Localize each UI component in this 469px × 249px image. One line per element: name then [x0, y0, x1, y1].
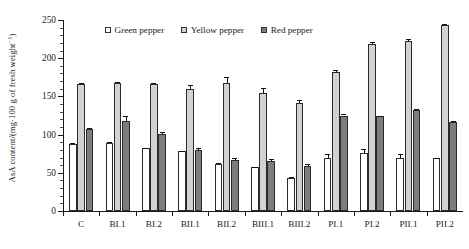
y-axis-tick-major — [58, 20, 63, 21]
error-bar-cap — [325, 154, 330, 155]
y-axis-tick-minor — [60, 119, 63, 120]
bar-green-pepper-BIII.2 — [287, 178, 295, 211]
y-axis-tick-minor — [60, 203, 63, 204]
bar-red-pepper-PII.2 — [449, 122, 457, 211]
x-axis-tick — [390, 211, 391, 216]
x-axis-tick-label: BII.2 — [217, 219, 236, 229]
y-axis-tick-minor — [60, 104, 63, 105]
legend-label: Red pepper — [271, 25, 313, 35]
legend-entry-yellow-pepper: Yellow pepper — [181, 25, 244, 35]
error-bar-cap — [378, 116, 383, 117]
x-axis-tick — [318, 211, 319, 216]
legend-label: Yellow pepper — [191, 25, 244, 35]
x-axis-tick-label: C — [78, 219, 84, 229]
bar-green-pepper-PI.1 — [324, 158, 332, 211]
legend-entry-red-pepper: Red pepper — [261, 25, 313, 35]
bar-yellow-pepper-BII.2 — [223, 83, 231, 211]
bar-red-pepper-BII.2 — [231, 160, 239, 211]
bar-yellow-pepper-BII.1 — [186, 89, 194, 211]
y-axis-tick-minor — [60, 81, 63, 82]
bar-red-pepper-BI.2 — [158, 134, 166, 211]
bar-yellow-pepper-BIII.2 — [296, 103, 304, 211]
y-axis-tick-label: 0 — [51, 206, 56, 216]
y-axis-tick-major — [58, 135, 63, 136]
bar-yellow-pepper-BI.1 — [114, 83, 122, 211]
error-bar-cap — [70, 143, 75, 144]
y-axis-tick-label: 50 — [47, 168, 56, 178]
bar-green-pepper-C — [69, 144, 77, 211]
y-axis-tick-minor — [60, 66, 63, 67]
y-axis-tick-minor — [60, 89, 63, 90]
x-axis-tick-label: PI.1 — [328, 219, 343, 229]
legend-swatch-icon — [105, 27, 111, 33]
x-axis-tick — [172, 211, 173, 216]
error-bar-cap — [151, 83, 156, 84]
legend-entry-green-pepper: Green pepper — [105, 25, 164, 35]
x-axis-tick-label: BIII.2 — [288, 219, 310, 229]
error-bar-cap — [269, 159, 274, 160]
x-axis-tick — [208, 211, 209, 216]
error-bar-cap — [115, 82, 120, 83]
chart-legend: Green pepperYellow pepperRed pepper — [105, 25, 313, 35]
legend-swatch-icon — [261, 27, 267, 33]
error-bar-cap — [87, 128, 92, 129]
x-axis-tick — [427, 211, 428, 216]
x-axis-tick-label: PII.2 — [436, 219, 454, 229]
error-bar-cap — [370, 42, 375, 43]
bar-green-pepper-BII.1 — [178, 151, 186, 211]
error-bar-cap — [261, 88, 266, 89]
bar-red-pepper-BII.1 — [195, 150, 203, 211]
y-axis-tick-major — [58, 96, 63, 97]
error-bar-cap — [180, 151, 185, 152]
legend-label: Green pepper — [115, 25, 165, 35]
y-axis-tick-minor — [60, 28, 63, 29]
error-bar-cap — [341, 114, 346, 115]
bar-green-pepper-BIII.1 — [251, 167, 259, 211]
bar-green-pepper-PI.2 — [360, 153, 368, 211]
y-axis-tick-minor — [60, 112, 63, 113]
bar-yellow-pepper-PII.1 — [405, 41, 413, 211]
error-bar-cap — [252, 167, 257, 168]
x-axis-tick — [354, 211, 355, 216]
bar-red-pepper-PII.1 — [413, 110, 421, 211]
bar-yellow-pepper-C — [77, 84, 85, 211]
bar-red-pepper-C — [86, 129, 94, 211]
y-axis-tick-minor — [60, 51, 63, 52]
error-bar-cap — [414, 109, 419, 110]
y-axis-title-text: AsA content/(mg·100 g of fresh weight — [7, 43, 17, 182]
y-axis-tick-minor — [60, 127, 63, 128]
y-axis-tick-label: 100 — [42, 130, 56, 140]
bar-red-pepper-PI.2 — [376, 116, 384, 211]
x-axis-tick — [99, 211, 100, 216]
bar-yellow-pepper-PI.2 — [368, 44, 376, 211]
x-axis-tick — [136, 211, 137, 216]
error-bar-cap — [442, 24, 447, 25]
y-axis-title-exponent: −1 — [5, 36, 12, 43]
y-axis-tick-major — [58, 173, 63, 174]
x-axis-tick — [245, 211, 246, 216]
error-bar-cap — [160, 132, 165, 133]
y-axis-tick-major — [58, 58, 63, 59]
error-bar-cap — [289, 177, 294, 178]
bar-red-pepper-BIII.1 — [267, 161, 275, 211]
bar-green-pepper-BI.1 — [106, 143, 114, 211]
error-bar-cap — [232, 158, 237, 159]
bar-yellow-pepper-PII.2 — [441, 25, 449, 211]
error-bar-cap — [216, 163, 221, 164]
error-bar-cap — [107, 142, 112, 143]
error-bar-cap — [79, 83, 84, 84]
y-axis-title: AsA content/(mg·100 g of fresh weight−1) — [0, 0, 22, 215]
x-axis-tick-label: PI.2 — [365, 219, 380, 229]
error-bar-cap — [196, 148, 201, 149]
x-axis-line — [63, 211, 463, 212]
x-axis-tick-label: BIII.1 — [252, 219, 274, 229]
y-axis-tick-minor — [60, 150, 63, 151]
y-axis-tick-minor — [60, 180, 63, 181]
x-axis-tick-label: BII.1 — [181, 219, 200, 229]
error-bar-cap — [406, 39, 411, 40]
x-axis-tick — [281, 211, 282, 216]
bar-red-pepper-PI.1 — [340, 116, 348, 212]
y-axis-tick-minor — [60, 158, 63, 159]
error-bar-cap — [224, 77, 229, 78]
bar-green-pepper-PII.1 — [396, 158, 404, 211]
